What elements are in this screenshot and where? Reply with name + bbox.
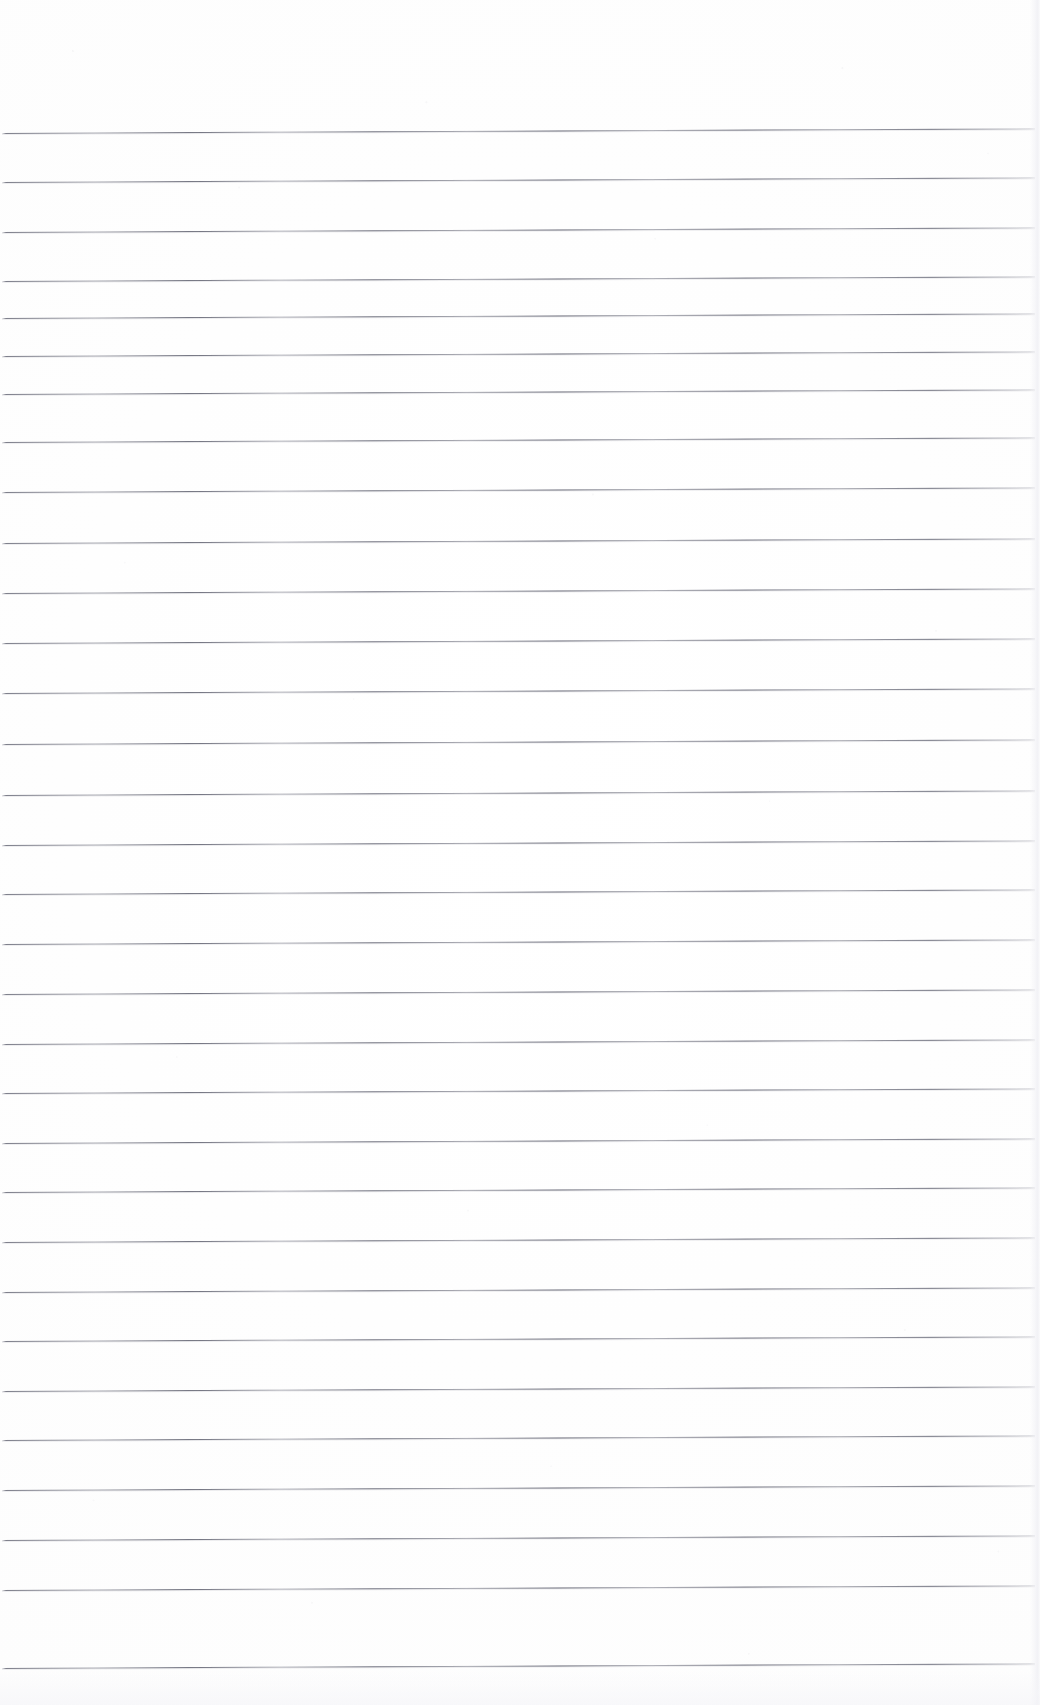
rule-line: [2, 487, 1035, 493]
rule-line: [2, 538, 1035, 544]
rule-line: [2, 588, 1035, 594]
rule-line: [2, 1187, 1035, 1193]
scanned-page: [0, 0, 1040, 1705]
rule-line: [2, 1088, 1035, 1094]
rule-line: [2, 437, 1035, 443]
rule-line: [2, 1435, 1035, 1441]
rule-line: [2, 840, 1035, 846]
rule-line: [2, 790, 1035, 796]
rule-line: [2, 276, 1035, 282]
rule-line: [2, 227, 1035, 233]
rule-line: [2, 177, 1035, 183]
ruled-lines-layer: [0, 0, 1040, 1705]
rule-line: [2, 1585, 1035, 1591]
rule-line: [2, 739, 1035, 745]
rule-line: [2, 638, 1035, 644]
rule-line: [2, 1485, 1035, 1491]
rule-line: [2, 889, 1035, 895]
rule-line: [2, 1287, 1035, 1293]
rule-line: [2, 939, 1035, 945]
rule-line: [2, 1663, 1035, 1669]
rule-line: [2, 351, 1035, 357]
rule-line: [2, 389, 1035, 395]
rule-line: [2, 313, 1035, 319]
rule-line: [2, 1336, 1035, 1342]
rule-line: [2, 1386, 1035, 1392]
rule-line: [2, 1039, 1035, 1045]
rule-line: [2, 1535, 1035, 1541]
rule-line: [2, 989, 1035, 995]
rule-line: [2, 1138, 1035, 1144]
rule-line: [2, 688, 1035, 694]
rule-line: [2, 128, 1035, 134]
rule-line: [2, 1237, 1035, 1243]
